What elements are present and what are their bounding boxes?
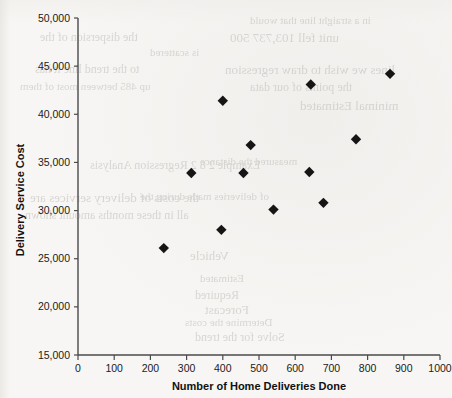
x-axis-tick-label: 300 [178, 362, 196, 374]
y-axis-tick-label: 15,000 [38, 349, 70, 361]
data-point-marker [351, 134, 361, 144]
y-axis-tick-label: 25,000 [38, 252, 70, 264]
data-point-marker [304, 167, 314, 177]
x-axis-tick-label: 500 [250, 362, 268, 374]
x-axis-tick-label: 400 [214, 362, 232, 374]
y-axis: 15,00020,00025,00030,00035,00040,00045,0… [38, 12, 78, 361]
data-point-marker [159, 243, 169, 253]
data-point-marker [306, 79, 316, 89]
data-point-marker [318, 198, 328, 208]
x-axis-tick-label: 800 [359, 362, 377, 374]
data-point-marker [245, 140, 255, 150]
data-point-marker [385, 69, 395, 79]
y-axis-tick-label: 35,000 [38, 156, 70, 168]
y-axis-tick-label: 45,000 [38, 60, 70, 72]
data-point-marker [218, 96, 228, 106]
data-point-marker [186, 168, 196, 178]
x-axis-tick-label: 200 [142, 362, 160, 374]
scatter-plot-page: in a straight line that wouldthe dispers… [0, 0, 452, 398]
y-axis-tick-label: 50,000 [38, 12, 70, 24]
x-axis-tick-label: 900 [395, 362, 413, 374]
y-axis-tick-label: 40,000 [38, 108, 70, 120]
x-axis: 01002003004005006007008009001000 [75, 355, 452, 374]
y-axis-title: Delivery Service Cost [14, 143, 26, 256]
y-axis-tick-label: 30,000 [38, 204, 70, 216]
x-axis-tick-label: 1000 [428, 362, 452, 374]
x-axis-tick-label: 0 [75, 362, 81, 374]
data-point-marker [268, 204, 278, 214]
data-markers [159, 69, 396, 254]
data-point-marker [216, 225, 226, 235]
y-axis-tick-label: 20,000 [38, 300, 70, 312]
x-axis-tick-label: 100 [105, 362, 123, 374]
x-axis-tick-label: 700 [323, 362, 341, 374]
data-point-marker [238, 168, 248, 178]
x-axis-tick-label: 600 [286, 362, 304, 374]
x-axis-title: Number of Home Deliveries Done [172, 380, 346, 392]
scatter-chart: 15,00020,00025,00030,00035,00040,00045,0… [0, 0, 452, 398]
